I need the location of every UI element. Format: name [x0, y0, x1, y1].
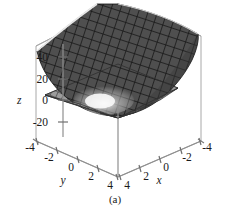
x-tick-label-0: 0 — [163, 161, 169, 173]
paraboloid-highlight-core — [85, 94, 115, 109]
plot-svg: 40 20 0 -20 z -4 -2 0 2 — [0, 0, 230, 196]
x-tick-2 — [139, 165, 141, 172]
z-tick-label-0: 0 — [42, 94, 48, 106]
y-tick-label--2: -2 — [44, 151, 54, 163]
y-tick-label-4: 4 — [107, 179, 113, 191]
z-tick-label-40: 40 — [37, 51, 49, 63]
x-tick-label-4: 4 — [124, 179, 130, 191]
y-tick-label-2: 2 — [88, 170, 94, 182]
x-axis-label: x — [155, 174, 162, 186]
y-tick-label-0: 0 — [68, 161, 74, 173]
z-tick-label--20: -20 — [33, 116, 49, 128]
surface-plot-3d: 40 20 0 -20 z -4 -2 0 2 — [0, 0, 230, 196]
figure-root: 40 20 0 -20 z -4 -2 0 2 — [0, 0, 230, 221]
y-tick-label--4: -4 — [25, 141, 35, 153]
figure-caption: (a) — [0, 193, 230, 205]
z-tick-label-20: 20 — [37, 73, 49, 85]
y-axis-label: y — [59, 174, 66, 187]
x-tick-label--2: -2 — [182, 151, 192, 163]
z-axis-label: z — [16, 94, 22, 106]
x-axis: 4 2 0 -2 -4 x — [118, 138, 212, 191]
y-axis: -4 -2 0 2 4 y — [25, 138, 118, 191]
x-tick-label-2: 2 — [143, 170, 149, 182]
